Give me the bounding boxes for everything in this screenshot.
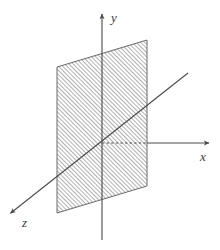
y-axis-label: y <box>109 10 117 25</box>
x-axis-label: x <box>199 149 206 164</box>
z-axis-label: z <box>21 215 27 230</box>
figure-container: y x z <box>0 0 220 250</box>
coordinate-axes-diagram: y x z <box>0 0 220 250</box>
